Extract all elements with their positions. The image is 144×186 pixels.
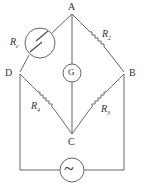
node-b-label: B bbox=[129, 68, 136, 78]
galvanometer-label: G bbox=[68, 68, 75, 77]
r2-label: R2 bbox=[102, 29, 111, 41]
rc-label: Rc bbox=[10, 37, 19, 49]
r4-label: R4 bbox=[31, 101, 40, 113]
node-a-label: A bbox=[68, 2, 75, 12]
wheatstone-bridge-diagram: A D B C Rc R2 R4 R3 G ~ bbox=[0, 0, 144, 186]
node-d-label: D bbox=[5, 68, 12, 78]
r3-label: R3 bbox=[101, 104, 110, 116]
ac-source-icon: ~ bbox=[64, 160, 74, 178]
node-c-label: C bbox=[68, 137, 75, 147]
